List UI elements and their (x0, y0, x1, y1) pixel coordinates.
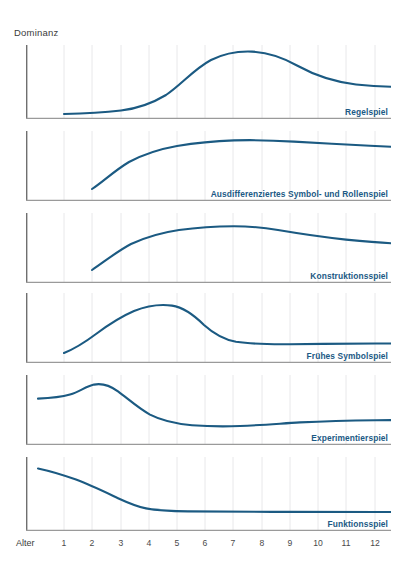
panel-konstruktionsspiel: Konstruktionsspiel (26, 213, 391, 283)
x-tick-5: 5 (175, 538, 180, 548)
panel-fruehes-symbolspiel: Frühes Symbolspiel (26, 293, 391, 363)
x-tick-11: 11 (342, 538, 351, 548)
x-axis-label: Alter (16, 538, 35, 548)
x-tick-9: 9 (288, 538, 293, 548)
y-axis-label: Dominanz (14, 27, 58, 38)
dominance-of-play-forms-chart: Dominanz Regelspiel (0, 0, 399, 571)
panel-funktionsspiel: Funktionsspiel (26, 457, 391, 531)
x-tick-3: 3 (119, 538, 124, 548)
panel-experimentierspiel: Experimentierspiel (26, 375, 391, 445)
x-tick-12: 12 (370, 538, 380, 548)
x-tick-8: 8 (260, 538, 265, 548)
series-label-experimentierspiel: Experimentierspiel (311, 433, 388, 444)
panel-plot-1 (26, 45, 391, 119)
curve-regelspiel (64, 52, 391, 114)
panel-regelspiel: Regelspiel (26, 45, 391, 119)
x-tick-6: 6 (203, 538, 208, 548)
series-label-fruehes-symbolspiel: Frühes Symbolspiel (307, 351, 388, 362)
x-tick-10: 10 (313, 538, 323, 548)
curve-funktionsspiel (38, 469, 391, 513)
curve-experimentierspiel (38, 384, 391, 426)
panel-ausdifferenziertes-symbol-und-rollenspiel: Ausdifferenziertes Symbol- und Rollenspi… (26, 131, 391, 201)
series-label-ausdifferenziertes-symbol-und-rollenspiel: Ausdifferenziertes Symbol- und Rollenspi… (211, 189, 388, 200)
curve-fruehes-symbolspiel (64, 305, 391, 353)
x-tick-2: 2 (90, 538, 95, 548)
x-tick-7: 7 (231, 538, 236, 548)
series-label-regelspiel: Regelspiel (345, 107, 388, 118)
series-label-konstruktionsspiel: Konstruktionsspiel (310, 271, 388, 282)
series-label-funktionsspiel: Funktionsspiel (328, 519, 389, 530)
x-tick-4: 4 (147, 538, 152, 548)
x-tick-1: 1 (62, 538, 67, 548)
